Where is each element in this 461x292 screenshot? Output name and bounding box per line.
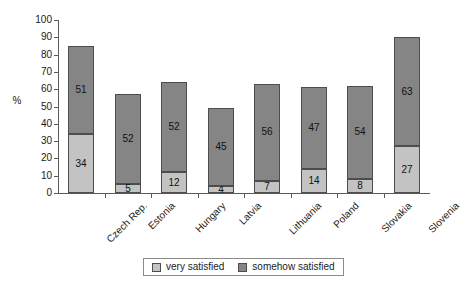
x-axis-tick-mark xyxy=(198,194,199,198)
bar-stack[interactable]: 3451 xyxy=(68,20,94,193)
legend-swatch-icon-somehow-satisfied xyxy=(238,263,247,272)
bar-segment-very-satisfied[interactable]: 4 xyxy=(208,186,234,193)
x-axis-tick-mark xyxy=(384,194,385,198)
bar-value-label: 5 xyxy=(125,184,131,194)
bar-segment-very-satisfied[interactable]: 14 xyxy=(301,169,327,193)
bar-value-label: 27 xyxy=(401,165,412,175)
bar-stack[interactable]: 854 xyxy=(347,20,373,193)
bar-value-label: 54 xyxy=(354,127,365,137)
bar-segment-very-satisfied[interactable]: 27 xyxy=(394,146,420,193)
y-axis-tick-label: 90 xyxy=(26,32,52,42)
x-axis-category-label: Estonia xyxy=(146,200,177,231)
x-axis-tick-mark xyxy=(151,194,152,198)
bar-stack[interactable]: 552 xyxy=(115,20,141,193)
bar-segment-somehow-satisfied[interactable]: 52 xyxy=(161,82,187,172)
y-axis-tick-label: 60 xyxy=(26,84,52,94)
bar-value-label: 52 xyxy=(168,122,179,132)
bar-value-label: 7 xyxy=(264,182,270,192)
y-axis-tick-label: 100 xyxy=(26,15,52,25)
bar-stack[interactable]: 756 xyxy=(254,20,280,193)
y-axis-line xyxy=(58,20,59,194)
bar-value-label: 52 xyxy=(122,134,133,144)
y-axis-tick-label: 80 xyxy=(26,50,52,60)
y-axis-tick-label: 10 xyxy=(26,171,52,181)
x-axis-category-label: Slovenia xyxy=(426,200,461,235)
bar-segment-very-satisfied[interactable]: 34 xyxy=(68,134,94,193)
y-axis-tick-label: 70 xyxy=(26,67,52,77)
bar-segment-somehow-satisfied[interactable]: 47 xyxy=(301,87,327,168)
bar-segment-somehow-satisfied[interactable]: 63 xyxy=(394,37,420,146)
bar-segment-very-satisfied[interactable]: 5 xyxy=(115,184,141,193)
x-axis-tick-mark xyxy=(105,194,106,198)
bar-stack[interactable]: 1447 xyxy=(301,20,327,193)
bar-value-label: 45 xyxy=(215,142,226,152)
x-axis-tick-mark xyxy=(244,194,245,198)
bar-value-label: 12 xyxy=(168,178,179,188)
bar-value-label: 56 xyxy=(261,127,272,137)
y-axis-tick-label: 20 xyxy=(26,153,52,163)
bar-segment-very-satisfied[interactable]: 8 xyxy=(347,179,373,193)
legend-item-very-satisfied: very satisfied xyxy=(152,262,224,272)
x-axis-category-label: Czech Rep. xyxy=(105,200,150,245)
bar-value-label: 14 xyxy=(308,176,319,186)
x-axis-tick-mark xyxy=(291,194,292,198)
bar-segment-somehow-satisfied[interactable]: 56 xyxy=(254,84,280,181)
bar-stack[interactable]: 1252 xyxy=(161,20,187,193)
legend-label-somehow-satisfied: somehow satisfied xyxy=(252,262,334,272)
bar-value-label: 47 xyxy=(308,123,319,133)
y-axis-tick-label: 50 xyxy=(26,102,52,112)
bar-segment-somehow-satisfied[interactable]: 45 xyxy=(208,108,234,186)
legend-label-very-satisfied: very satisfied xyxy=(166,262,224,272)
bar-stack[interactable]: 2763 xyxy=(394,20,420,193)
x-axis-category-label: Slovakia xyxy=(379,200,414,235)
bar-value-label: 51 xyxy=(75,85,86,95)
bar-value-label: 8 xyxy=(357,181,363,191)
bar-segment-somehow-satisfied[interactable]: 54 xyxy=(347,86,373,179)
bar-segment-somehow-satisfied[interactable]: 52 xyxy=(115,94,141,184)
y-axis-tick-label: 0 xyxy=(26,188,52,198)
x-axis-category-label: Hungary xyxy=(193,200,228,235)
bar-segment-somehow-satisfied[interactable]: 51 xyxy=(68,46,94,134)
x-axis-category-label: Lithuania xyxy=(287,200,323,236)
legend: very satisfied somehow satisfied xyxy=(143,258,344,276)
y-axis-tick-label: 30 xyxy=(26,136,52,146)
y-axis-title: % xyxy=(6,95,28,106)
legend-swatch-icon-very-satisfied xyxy=(152,263,161,272)
y-axis-tick-label: 40 xyxy=(26,119,52,129)
bar-value-label: 34 xyxy=(75,159,86,169)
legend-item-somehow-satisfied: somehow satisfied xyxy=(238,262,334,272)
bar-segment-very-satisfied[interactable]: 7 xyxy=(254,181,280,193)
x-axis-tick-mark xyxy=(337,194,338,198)
bar-value-label: 63 xyxy=(401,87,412,97)
bar-stack[interactable]: 445 xyxy=(208,20,234,193)
x-axis-category-label: Poland xyxy=(331,200,361,230)
x-axis-category-label: Latvia xyxy=(237,200,264,227)
bar-segment-very-satisfied[interactable]: 12 xyxy=(161,172,187,193)
